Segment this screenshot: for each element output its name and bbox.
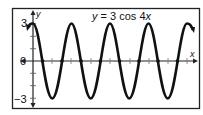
y-tick-label-0: 0	[20, 55, 26, 67]
y-tick-label-neg3: −3	[14, 93, 27, 105]
chart-title: y = 3 cos 4x	[91, 10, 152, 22]
y-tick-label-3: 3	[21, 17, 27, 29]
y-axis-label: y	[35, 9, 41, 19]
title-var: x	[145, 10, 152, 22]
title-eq: = 3 cos 4	[98, 10, 146, 22]
chart: 3 0 −3 y x y = 3 cos 4x	[0, 0, 203, 115]
x-axis-label: x	[189, 49, 195, 59]
